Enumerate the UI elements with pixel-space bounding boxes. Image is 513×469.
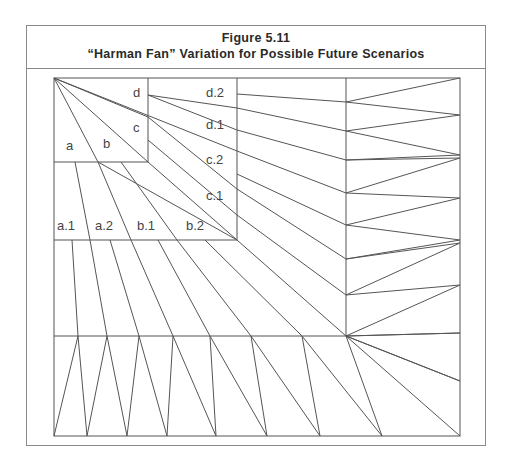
label-b1: b.1 bbox=[137, 218, 155, 233]
label-a: a bbox=[66, 138, 74, 153]
label-c2: c.2 bbox=[206, 152, 223, 167]
label-b2: b.2 bbox=[186, 218, 204, 233]
level4-bottom-zigzag bbox=[54, 336, 382, 436]
label-c: c bbox=[133, 120, 140, 135]
harman-fan-diagram: a b c d a.1 a.2 b.1 b.2 c.1 c.2 d.1 d.2 bbox=[0, 0, 513, 469]
label-b: b bbox=[103, 136, 110, 151]
label-d: d bbox=[133, 85, 140, 100]
label-c1: c.1 bbox=[206, 188, 223, 203]
diagram-lines bbox=[54, 78, 460, 436]
scenario-labels: a b c d a.1 a.2 b.1 b.2 c.1 c.2 d.1 d.2 bbox=[57, 85, 224, 233]
label-d2: d.2 bbox=[206, 85, 224, 100]
label-a2: a.2 bbox=[95, 218, 113, 233]
label-d1: d.1 bbox=[206, 117, 224, 132]
label-a1: a.1 bbox=[57, 218, 75, 233]
